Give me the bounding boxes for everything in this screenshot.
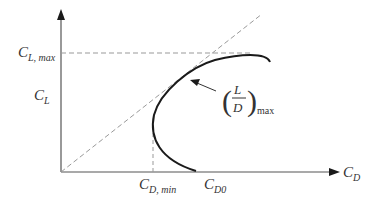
drag-polar-diagram: CL CL, max CD CD, min CD0 ( L D ) max xyxy=(0,0,375,200)
cd-min-label: CD, min xyxy=(139,176,176,195)
ld-max-pointer-arrow-icon xyxy=(190,79,200,86)
x-axis-label: CD xyxy=(343,164,361,183)
svg-text:D: D xyxy=(232,100,243,115)
y-axis-label: CL xyxy=(34,87,50,106)
ld-max-pointer-line xyxy=(197,83,216,91)
svg-text:): ) xyxy=(247,84,257,118)
svg-text:max: max xyxy=(257,105,274,116)
x-axis-arrow-icon xyxy=(329,168,340,176)
cd0-label: CD0 xyxy=(204,176,226,195)
ld-max-label: ( L D ) max xyxy=(222,82,274,118)
y-axis-arrow-icon xyxy=(57,9,65,20)
svg-text:(: ( xyxy=(222,84,232,118)
cl-max-label: CL, max xyxy=(18,44,56,63)
svg-text:L: L xyxy=(233,82,241,97)
